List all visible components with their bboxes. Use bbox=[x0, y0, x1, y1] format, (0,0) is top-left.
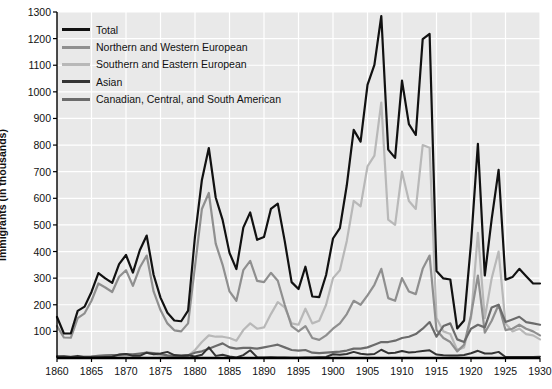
legend-line-swatch-icon bbox=[62, 63, 90, 66]
legend-item-label: Total bbox=[96, 24, 118, 36]
chart-legend: TotalNorthern and Western EuropeanSouthe… bbox=[62, 21, 281, 108]
x-tick-label: 1900 bbox=[321, 365, 344, 377]
x-tick-label: 1905 bbox=[356, 365, 379, 377]
x-tick-label: 1860 bbox=[45, 365, 68, 377]
x-tick-label: 1915 bbox=[425, 365, 448, 377]
x-tick-label: 1925 bbox=[494, 365, 517, 377]
legend-item-label: Canadian, Central, and South American bbox=[96, 93, 281, 105]
x-tick-label: 1870 bbox=[114, 365, 137, 377]
x-tick-label: 1890 bbox=[252, 365, 275, 377]
x-tick-label: 1865 bbox=[80, 365, 103, 377]
legend-line-swatch-icon bbox=[62, 46, 90, 49]
legend-item[interactable]: Total bbox=[62, 21, 281, 38]
x-tick-label: 1930 bbox=[528, 365, 551, 377]
legend-item[interactable]: Canadian, Central, and South American bbox=[62, 91, 281, 108]
legend-item-label: Southern and Eastern European bbox=[96, 58, 247, 70]
x-tick-label: 1895 bbox=[287, 365, 310, 377]
x-tick-label: 1910 bbox=[390, 365, 413, 377]
legend-item[interactable]: Asian bbox=[62, 73, 281, 90]
x-tick-label: 1920 bbox=[459, 365, 482, 377]
legend-item-label: Asian bbox=[96, 76, 122, 88]
legend-item[interactable]: Northern and Western European bbox=[62, 38, 281, 55]
x-tick-label: 1885 bbox=[218, 365, 241, 377]
x-tick-label: 1880 bbox=[183, 365, 206, 377]
x-tick-label: 1875 bbox=[149, 365, 172, 377]
legend-item[interactable]: Southern and Eastern European bbox=[62, 56, 281, 73]
legend-item-label: Northern and Western European bbox=[96, 41, 248, 53]
legend-line-swatch-icon bbox=[62, 28, 90, 31]
legend-line-swatch-icon bbox=[62, 98, 90, 101]
legend-line-swatch-icon bbox=[62, 80, 90, 83]
